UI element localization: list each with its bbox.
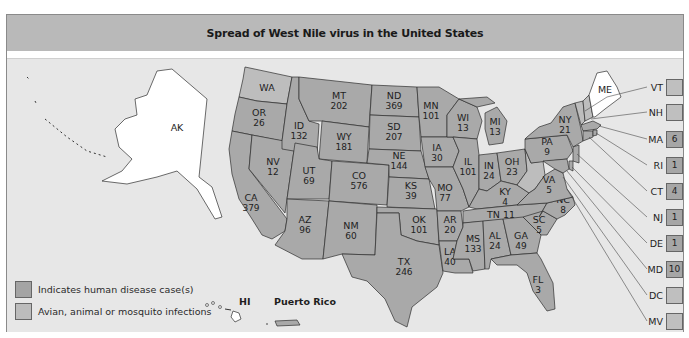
svg-text:181: 181 (335, 142, 352, 152)
svg-text:60: 60 (345, 231, 357, 241)
svg-text:AL: AL (489, 230, 501, 241)
svg-text:WA: WA (259, 82, 275, 93)
svg-text:101: 101 (422, 111, 439, 121)
state-MA[interactable] (581, 121, 601, 131)
svg-text:MS: MS (466, 233, 480, 244)
legend: Indicates human disease case(s) Avian, a… (15, 278, 212, 322)
svg-text:NE: NE (392, 150, 405, 161)
svg-text:13: 13 (457, 123, 468, 133)
svg-text:IN: IN (484, 160, 494, 171)
callout-NH[interactable]: NH (627, 104, 683, 120)
state-MT[interactable]: MT 202 (299, 77, 372, 127)
state-IA[interactable]: IA 30 (421, 137, 459, 167)
svg-text:4: 4 (502, 197, 508, 207)
svg-text:246: 246 (395, 267, 412, 277)
svg-text:CO: CO (352, 170, 366, 181)
svg-text:101: 101 (459, 167, 476, 177)
svg-text:13: 13 (489, 127, 500, 137)
svg-text:ID: ID (294, 120, 304, 131)
svg-text:KS: KS (405, 180, 417, 191)
state-SD[interactable]: SD 207 (369, 115, 421, 151)
svg-text:TX: TX (397, 256, 411, 267)
svg-text:9: 9 (544, 147, 550, 157)
svg-text:369: 369 (385, 101, 402, 111)
callout-NJ[interactable]: NJ 1 (627, 209, 683, 225)
svg-text:12: 12 (267, 167, 278, 177)
svg-text:KY: KY (499, 186, 511, 197)
state-DE[interactable] (569, 161, 573, 171)
svg-text:VA: VA (543, 174, 556, 185)
state-KS[interactable]: KS 39 (387, 177, 435, 209)
svg-text:GA: GA (514, 230, 528, 241)
svg-text:NM: NM (343, 220, 358, 231)
state-ME[interactable]: ME (589, 71, 621, 117)
hawaii-label: HI (239, 296, 251, 307)
callout-CT[interactable]: CT 4 (627, 183, 683, 199)
svg-text:24: 24 (489, 241, 501, 251)
svg-text:202: 202 (330, 101, 347, 111)
svg-text:96: 96 (299, 225, 311, 235)
svg-text:26: 26 (253, 118, 265, 128)
svg-text:WI: WI (457, 112, 469, 123)
svg-text:ND: ND (387, 90, 401, 101)
svg-text:NY: NY (559, 114, 572, 125)
svg-text:101: 101 (410, 225, 427, 235)
svg-text:AR: AR (443, 214, 456, 225)
svg-text:SD: SD (387, 121, 400, 132)
svg-text:MT: MT (332, 90, 346, 101)
svg-text:MI: MI (490, 116, 501, 127)
svg-text:77: 77 (439, 193, 450, 203)
small-state-callouts: VT NH MA 6 RI 1 CT 4 NJ 1 (627, 59, 683, 332)
svg-text:OR: OR (252, 107, 266, 118)
state-CO[interactable]: CO 576 (329, 161, 389, 205)
callout-MA[interactable]: MA 6 (627, 131, 683, 147)
svg-text:OK: OK (412, 214, 426, 225)
state-AK[interactable]: AK (27, 69, 222, 219)
svg-text:20: 20 (444, 225, 456, 235)
svg-text:IA: IA (432, 142, 442, 153)
svg-text:379: 379 (242, 203, 259, 213)
svg-text:UT: UT (303, 165, 316, 176)
svg-text:FL: FL (533, 274, 544, 285)
state-FL[interactable]: FL 3 (491, 253, 555, 311)
callout-MV[interactable]: MV (627, 313, 683, 329)
svg-text:MN: MN (423, 100, 438, 111)
svg-text:CA: CA (244, 192, 258, 203)
svg-text:SC: SC (533, 214, 546, 225)
svg-text:AZ: AZ (298, 214, 311, 225)
svg-text:3: 3 (535, 285, 541, 295)
callout-RI[interactable]: RI 1 (627, 157, 683, 173)
human-case-swatch (15, 281, 32, 298)
svg-text:MO: MO (437, 182, 453, 193)
svg-text:OH: OH (505, 156, 520, 167)
svg-text:NV: NV (266, 156, 280, 167)
callout-MD[interactable]: MD 10 (627, 261, 683, 277)
figure-title: Spread of West Nile virus in the United … (207, 27, 484, 40)
svg-text:69: 69 (303, 176, 315, 186)
state-WY[interactable]: WY 181 (319, 121, 369, 163)
svg-text:49: 49 (515, 241, 527, 251)
legend-item-human: Indicates human disease case(s) (15, 278, 212, 300)
state-ND[interactable]: ND 369 (370, 85, 419, 117)
svg-text:21: 21 (559, 125, 570, 135)
callout-DC[interactable]: DC (627, 287, 683, 303)
svg-text:39: 39 (405, 191, 417, 201)
territory-PR[interactable] (266, 320, 300, 326)
svg-text:IL: IL (464, 156, 473, 167)
svg-text:WY: WY (336, 131, 351, 142)
state-label-AK: AK (171, 122, 184, 133)
legend-item-avian: Avian, animal or mosquito infections (15, 300, 212, 322)
map-panel: AK WA OR 26 CA 379 NV 1 (7, 58, 683, 332)
state-NJ[interactable] (573, 145, 579, 163)
svg-text:8: 8 (560, 205, 566, 215)
svg-text:144: 144 (390, 161, 407, 171)
map-figure: Spread of West Nile virus in the United … (6, 14, 684, 332)
state-NM[interactable]: NM 60 (323, 201, 377, 259)
svg-text:5: 5 (536, 225, 542, 235)
svg-text:23: 23 (506, 167, 517, 177)
svg-text:5: 5 (546, 185, 552, 195)
puerto-rico-label: Puerto Rico (274, 296, 336, 307)
svg-text:207: 207 (385, 132, 402, 142)
callout-VT[interactable]: VT (627, 79, 683, 95)
callout-DE[interactable]: DE 1 (627, 235, 683, 251)
